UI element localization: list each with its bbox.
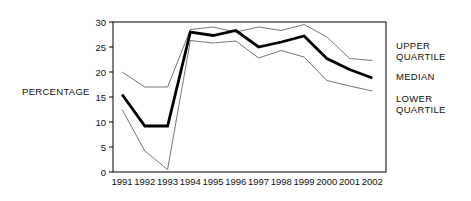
x-tick-label: 2000 <box>316 176 337 187</box>
legend-lower-quartile: LOWER QUARTILE <box>396 93 446 115</box>
legend-upper-quartile: UPPER QUARTILE <box>396 40 446 62</box>
x-tick-label: 1997 <box>248 176 269 187</box>
legend-lower-line2: QUARTILE <box>396 104 446 115</box>
legend-lower-line1: LOWER <box>396 93 446 104</box>
y-tick-label: 10 <box>95 117 106 128</box>
y-tick-label: 30 <box>95 17 106 28</box>
y-tick-label: 15 <box>95 92 106 103</box>
plot-area-border <box>113 22 386 172</box>
y-axis-title: PERCENTAGE <box>22 86 90 97</box>
legend-upper-line2: QUARTILE <box>396 51 446 62</box>
x-tick-label: 1993 <box>157 176 178 187</box>
x-tick-label: 1996 <box>225 176 246 187</box>
x-tick-label: 2002 <box>362 176 383 187</box>
y-tick-label: 20 <box>95 67 106 78</box>
x-tick-label: 1995 <box>203 176 224 187</box>
x-tick-label: 2001 <box>339 176 360 187</box>
y-tick-label: 25 <box>95 42 106 53</box>
y-tick-label: 5 <box>101 142 106 153</box>
y-axis-ticks: 051015202530 <box>95 17 113 178</box>
x-tick-label: 1998 <box>271 176 292 187</box>
plot-frame <box>113 22 386 172</box>
chart-container: 051015202530 199119921993199419951996199… <box>0 0 471 201</box>
x-tick-label: 1992 <box>134 176 155 187</box>
legend-upper-line1: UPPER <box>396 40 446 51</box>
legend-median: MEDIAN <box>396 71 435 82</box>
x-tick-label: 1999 <box>294 176 315 187</box>
x-axis-ticks: 1991199219931994199519961997199819992000… <box>112 176 383 187</box>
legend-median-line1: MEDIAN <box>396 71 435 82</box>
y-tick-label: 0 <box>101 167 106 178</box>
x-tick-label: 1994 <box>180 176 201 187</box>
x-tick-label: 1991 <box>112 176 133 187</box>
